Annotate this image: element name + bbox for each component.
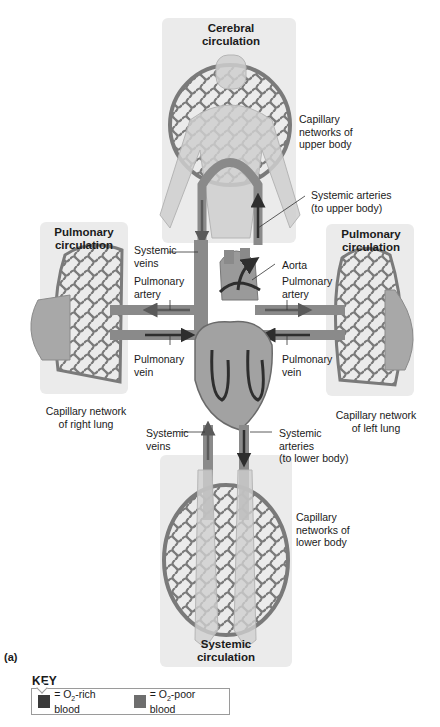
systemic-circulation-title: Systemic circulation — [190, 638, 262, 664]
label-capillary-network-right-lung: Capillary network of right lung — [38, 405, 134, 430]
label-systemic-arteries-lower-body: Systemic arteries (to lower body) — [279, 427, 348, 465]
label-systemic-arteries-upper-body: Systemic arteries (to upper body) — [311, 189, 392, 214]
left-lung — [335, 248, 413, 385]
key-item-o2-poor: = O2-poor blood — [134, 688, 219, 714]
circulatory-system-diagram — [0, 0, 440, 727]
key-item-o2-rich: = O2-rich blood — [38, 688, 120, 714]
label-pulmonary-artery-left-lung: Pulmonary artery — [282, 275, 332, 300]
label-capillary-networks-upper-body: Capillary networks of upper body — [299, 113, 353, 151]
label-systemic-veins-bottom: Systemic veins — [146, 427, 189, 452]
key-o2-rich-label: = O2-rich blood — [54, 688, 119, 714]
o2-rich-swatch — [38, 695, 50, 708]
heart — [194, 240, 272, 430]
label-capillary-networks-lower-body: Capillary networks of lower body — [296, 511, 350, 549]
label-aorta: Aorta — [282, 259, 307, 272]
label-systemic-veins-top: Systemic veins — [134, 244, 177, 269]
label-pulmonary-vein-right-lung: Pulmonary vein — [134, 353, 184, 378]
key-legend: = O2-rich blood = O2-poor blood — [31, 688, 230, 715]
right-lung — [31, 245, 122, 382]
pulmonary-circulation-title-right-lung: Pulmonary circulation — [46, 226, 122, 252]
cerebral-circulation-title: Cerebral circulation — [196, 22, 266, 48]
label-pulmonary-vein-left-lung: Pulmonary vein — [282, 353, 332, 378]
key-o2-poor-label: = O2-poor blood — [150, 688, 219, 714]
o2-poor-swatch — [134, 695, 146, 708]
figure-label: (a) — [4, 651, 17, 663]
label-pulmonary-artery-right-lung: Pulmonary artery — [134, 275, 184, 300]
pulmonary-circulation-title-left-lung: Pulmonary circulation — [333, 228, 409, 254]
lower-body-capillary-network — [164, 485, 288, 635]
